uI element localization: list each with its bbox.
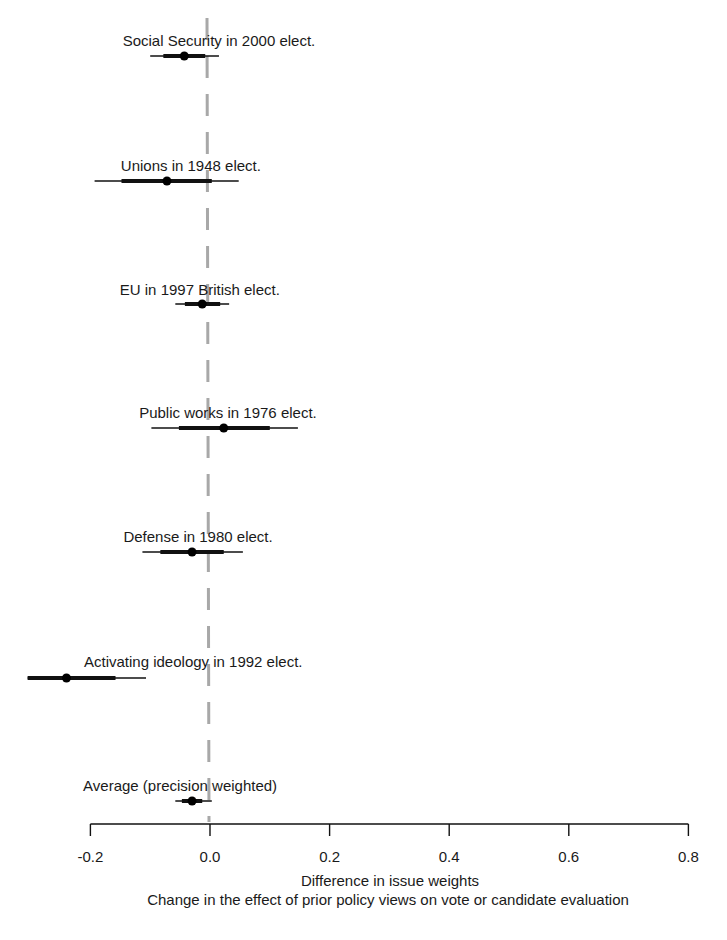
estimate-label: Public works in 1976 elect. <box>139 404 317 421</box>
estimate-row: Social Security in 2000 elect. <box>123 32 316 61</box>
estimate-row: Activating ideology in 1992 elect. <box>28 653 303 683</box>
point-estimate-marker <box>162 177 171 186</box>
x-axis-subtitle: Change in the effect of prior policy vie… <box>147 891 629 908</box>
point-estimate-marker <box>188 548 197 557</box>
x-tick-label: 0.4 <box>439 848 460 865</box>
point-estimate-marker <box>219 424 228 433</box>
x-tick-label: 0.8 <box>678 848 699 865</box>
estimate-row: Unions in 1948 elect. <box>95 157 261 186</box>
estimate-row: EU in 1997 British elect. <box>120 281 280 309</box>
x-tick-label: -0.2 <box>77 848 103 865</box>
estimate-row: Average (precision weighted) <box>83 777 277 806</box>
estimate-label: Average (precision weighted) <box>83 777 277 794</box>
point-estimate-marker <box>198 300 207 309</box>
estimate-label: Unions in 1948 elect. <box>121 157 261 174</box>
estimate-rows: Social Security in 2000 elect.Unions in … <box>28 32 317 806</box>
estimate-label: Social Security in 2000 elect. <box>123 32 316 49</box>
coefficient-plot: Social Security in 2000 elect.Unions in … <box>0 0 727 940</box>
point-estimate-marker <box>188 797 197 806</box>
estimate-label: EU in 1997 British elect. <box>120 281 280 298</box>
x-tick-label: 0.0 <box>200 848 221 865</box>
estimate-row: Public works in 1976 elect. <box>139 404 317 433</box>
point-estimate-marker <box>180 52 189 61</box>
point-estimate-marker <box>62 674 71 683</box>
x-tick-label: 0.6 <box>558 848 579 865</box>
x-axis-title: Difference in issue weights <box>301 872 479 889</box>
x-axis: -0.20.00.20.40.60.8 <box>77 824 698 865</box>
x-tick-label: 0.2 <box>319 848 340 865</box>
estimate-row: Defense in 1980 elect. <box>123 528 272 557</box>
estimate-label: Defense in 1980 elect. <box>123 528 272 545</box>
estimate-label: Activating ideology in 1992 elect. <box>84 653 302 670</box>
